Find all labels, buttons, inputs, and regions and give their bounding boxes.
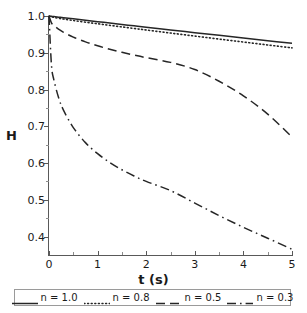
x-axis-line xyxy=(48,255,293,256)
plot-area xyxy=(49,16,292,255)
y-tick-label: 0.8 xyxy=(28,85,46,96)
legend-entry[interactable]: n = 0.5 xyxy=(153,293,225,303)
x-tick-label: 5 xyxy=(282,259,302,270)
legend-swatch-solid xyxy=(12,293,38,302)
curve-series-1 xyxy=(49,16,292,43)
x-tick-label: 0 xyxy=(39,259,59,270)
y-tick-label: 0.7 xyxy=(28,121,46,132)
y-tick-label: 0.9 xyxy=(28,48,46,59)
legend-entry[interactable]: n = 1.0 xyxy=(9,293,81,303)
curve-series-3 xyxy=(49,16,292,137)
x-tick-label: 1 xyxy=(88,259,108,270)
x-tick-label: 3 xyxy=(185,259,205,270)
x-tick xyxy=(292,251,293,256)
x-tick-label: 2 xyxy=(136,259,156,270)
y-axis-title: H xyxy=(6,128,17,143)
curves-svg xyxy=(49,16,292,255)
legend-swatch-dashed xyxy=(156,293,182,302)
legend-label: n = 1.0 xyxy=(41,293,78,303)
legend-label: n = 0.3 xyxy=(256,293,293,303)
x-axis-title: t (s) xyxy=(0,272,307,287)
chart-legend: n = 1.0n = 0.8n = 0.5n = 0.3 xyxy=(14,289,291,306)
chart-figure: 0.40.50.60.70.80.91.0012345 H t (s) n = … xyxy=(0,0,307,313)
curve-series-4 xyxy=(49,16,292,249)
legend-entry[interactable]: n = 0.8 xyxy=(81,293,153,303)
y-tick-label: 1.0 xyxy=(28,11,46,22)
legend-swatch-dashdot xyxy=(227,293,253,302)
legend-swatch-dotted xyxy=(84,293,110,302)
legend-label: n = 0.8 xyxy=(113,293,150,303)
y-tick-label: 0.4 xyxy=(28,232,46,243)
y-tick-label: 0.6 xyxy=(28,158,46,169)
x-tick-label: 4 xyxy=(233,259,253,270)
legend-entry[interactable]: n = 0.3 xyxy=(224,293,296,303)
y-tick-label: 0.5 xyxy=(28,195,46,206)
legend-label: n = 0.5 xyxy=(185,293,222,303)
